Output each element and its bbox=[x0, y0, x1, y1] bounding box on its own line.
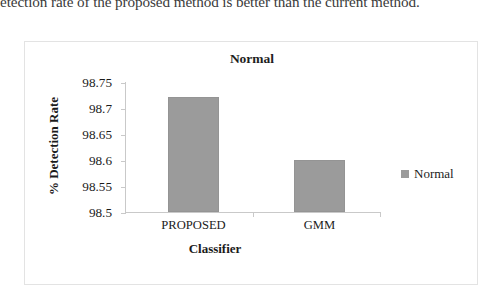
y-tick-label: 98.75 bbox=[82, 75, 112, 91]
y-tick-mark: 98.6 bbox=[121, 161, 125, 162]
y-tick-label: 98.7 bbox=[89, 101, 112, 117]
chart-container: Normal % Detection Rate 98.75 98.7 98.65… bbox=[24, 41, 478, 285]
plot-area: 98.75 98.7 98.65 98.6 98.55 98.5 PROPOSE… bbox=[125, 83, 381, 213]
y-tick-mark: 98.55 bbox=[121, 187, 125, 188]
legend-swatch-normal bbox=[401, 170, 409, 178]
chart-title: Normal bbox=[25, 51, 479, 67]
y-tick-mark: 98.65 bbox=[121, 135, 125, 136]
y-tick-mark: 98.5 bbox=[121, 213, 125, 214]
y-tick-label: 98.55 bbox=[82, 179, 112, 195]
y-axis-title: % Detection Rate bbox=[46, 71, 62, 221]
legend-label-normal: Normal bbox=[414, 166, 454, 182]
y-tick-mark: 98.7 bbox=[121, 109, 125, 110]
bar-proposed[interactable]: PROPOSED bbox=[168, 97, 219, 212]
y-axis-line bbox=[125, 82, 126, 214]
document-caption-text: etection rate of the proposed method is … bbox=[0, 0, 495, 11]
x-tick-mark bbox=[380, 213, 381, 217]
x-axis-title: Classifier bbox=[25, 241, 405, 257]
x-tick-mark bbox=[253, 213, 254, 217]
y-tick-label: 98.5 bbox=[89, 205, 112, 221]
y-tick-label: 98.6 bbox=[89, 153, 112, 169]
bar-gmm[interactable]: GMM bbox=[294, 160, 345, 212]
y-tick-mark: 98.75 bbox=[121, 83, 125, 84]
x-tick-label-proposed: PROPOSED bbox=[161, 218, 225, 233]
y-tick-label: 98.65 bbox=[82, 127, 112, 143]
x-tick-label-gmm: GMM bbox=[304, 218, 336, 233]
chart-legend: Normal bbox=[401, 166, 454, 182]
